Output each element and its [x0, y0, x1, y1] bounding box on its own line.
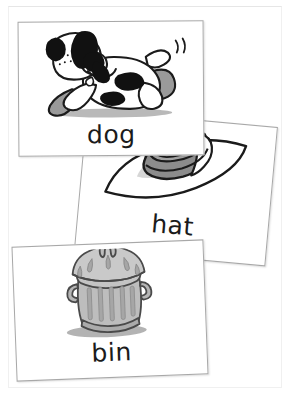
bin-illustration — [13, 244, 206, 343]
flashcard-word-bin: bin — [16, 334, 207, 370]
dog-icon — [26, 26, 197, 121]
bin-icon — [48, 247, 171, 342]
flashcard-word-dog: dog — [19, 119, 203, 149]
flashcard-bin[interactable]: bin — [11, 239, 208, 381]
flashcard-dog[interactable]: dog — [18, 20, 205, 156]
flashcard-sheet: dog hat — [0, 0, 290, 394]
dog-illustration — [19, 25, 204, 122]
